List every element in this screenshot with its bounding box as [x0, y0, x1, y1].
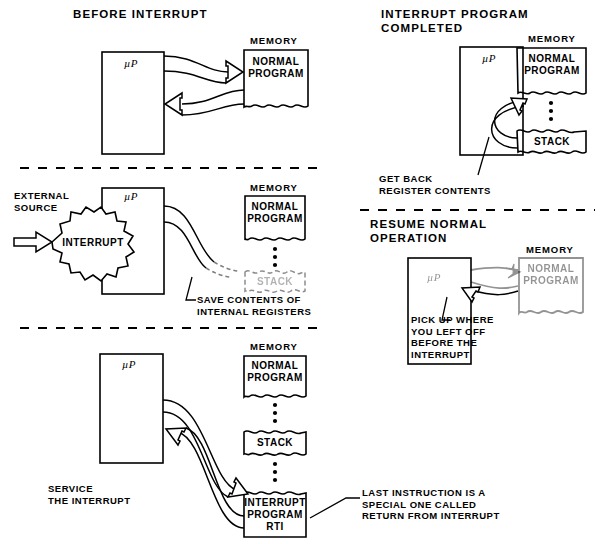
memory-stack-label-p2: STACK — [245, 276, 305, 288]
save-contents-annotation: SAVE CONTENTS OF INTERNAL REGISTERS — [197, 294, 311, 317]
arrow-cpu-to-memory-p1 — [226, 61, 243, 83]
panel-3-graphics — [100, 354, 360, 537]
cpu-label-p3: µP — [122, 359, 136, 370]
interrupt-burst-label: INTERRUPT — [62, 237, 124, 249]
cpu-label-p1: µP — [124, 58, 138, 69]
memory-header-p2: MEMORY — [250, 182, 298, 193]
cpu-label-p4: µP — [482, 53, 496, 64]
memory-header-p1: MEMORY — [250, 35, 298, 46]
memory-stack-label-p4: STACK — [518, 136, 586, 148]
get-back-annotation: GET BACK REGISTER CONTENTS — [379, 173, 491, 196]
cpu-label-p2: µP — [124, 191, 138, 202]
external-source-label: EXTERNAL SOURCE — [14, 190, 69, 213]
memory-header-p4: MEMORY — [528, 33, 576, 44]
memory-normal-program-label-p2: NORMAL PROGRAM — [245, 201, 305, 225]
memory-normal-program-label-p5: NORMAL PROGRAM — [519, 263, 583, 287]
pick-up-annotation: PICK UP WHERE YOU LEFT OFF BEFORE THE IN… — [411, 314, 494, 360]
leader-save-contents — [186, 277, 196, 300]
external-source-arrow — [14, 232, 52, 252]
cpu-box-p3 — [100, 354, 163, 463]
leader-rti-note — [310, 498, 360, 518]
memory-stack-label-p3: STACK — [244, 437, 306, 449]
memory-normal-program-label-p1: NORMAL PROGRAM — [244, 56, 308, 80]
memory-header-p3: MEMORY — [250, 341, 298, 352]
memory-interrupt-program-label-p3: INTERRUPT PROGRAM RTI — [244, 497, 306, 533]
panel-1-title: BEFORE INTERRUPT — [73, 7, 208, 21]
cpu-label-p5: µP — [427, 272, 441, 283]
memory-normal-program-label-p4: NORMAL PROGRAM — [518, 53, 586, 77]
arrow-stack-to-cpu-p4 — [511, 98, 527, 115]
memory-normal-program-label-p3: NORMAL PROGRAM — [244, 360, 306, 384]
panel-5-title: RESUME NORMAL OPERATION — [370, 217, 487, 245]
leader-get-back — [478, 137, 489, 175]
arrow-memory-to-cpu-p5 — [462, 287, 480, 302]
arrow-interrupt-program-to-cpu-p3 — [166, 428, 186, 445]
diagram-canvas: BEFORE INTERRUPT MEMORY µP NORMAL PROGRA… — [0, 0, 602, 544]
memory-header-p5: MEMORY — [526, 244, 574, 255]
arrow-memory-to-cpu-p1 — [165, 93, 182, 115]
service-caption: SERVICE THE INTERRUPT — [48, 483, 131, 506]
rti-note-annotation: LAST INSTRUCTION IS A SPECIAL ONE CALLED… — [362, 487, 500, 522]
panel-4-title: INTERRUPT PROGRAM COMPLETED — [381, 7, 529, 35]
diagram-vector-layer — [0, 0, 602, 544]
